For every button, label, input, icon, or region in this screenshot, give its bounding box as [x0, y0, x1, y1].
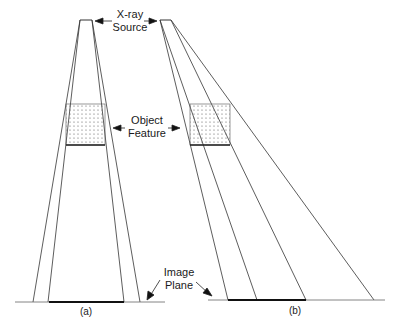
- object-b: [190, 104, 230, 145]
- xray-source-label: X-ray Source: [112, 8, 148, 34]
- object-a: [66, 104, 105, 145]
- image-label-line1: Image: [160, 266, 198, 279]
- panel-b: [160, 20, 385, 300]
- object-label-line1: Object: [122, 114, 172, 127]
- annotation-arrows: [95, 18, 212, 300]
- image-plane-label: Image Plane: [160, 266, 198, 292]
- xray-label-line1: X-ray: [112, 8, 148, 21]
- panel-a: [15, 20, 165, 302]
- panel-b-label: (b): [283, 304, 307, 317]
- object-feature-label: Object Feature: [122, 114, 172, 140]
- plane-label-line2: Plane: [160, 279, 198, 292]
- source-label-line2: Source: [112, 21, 148, 34]
- feature-label-line2: Feature: [122, 127, 172, 140]
- panel-a-label: (a): [74, 305, 98, 318]
- xray-projection-diagram: X-ray Source Object Feature Image Plane …: [0, 0, 395, 322]
